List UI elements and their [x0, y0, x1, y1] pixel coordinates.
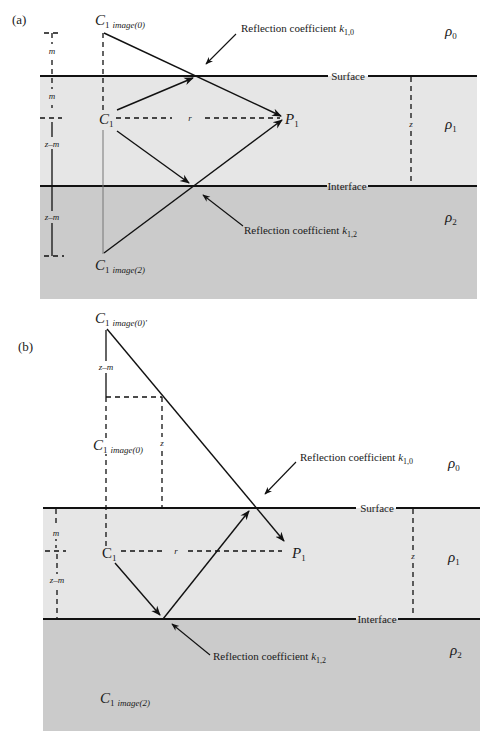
rho0-label: ρ0: [444, 23, 457, 41]
reflection-top-pointer: [206, 34, 236, 64]
layer-2-region: [43, 619, 480, 731]
surface-label: Surface: [360, 502, 394, 514]
reflection-top-label: Reflection coefficient k1,0: [300, 451, 413, 466]
dim-m-lower: m: [49, 91, 56, 101]
panel-a: Surface Interface (a) m m z–m z–m C1imag…: [12, 12, 477, 299]
panel-b-label: (b): [18, 339, 33, 354]
layer-2-region: [40, 186, 477, 299]
interface-label: Interface: [357, 613, 396, 625]
surface-label: Surface: [331, 70, 365, 82]
rho0-label: ρ0: [447, 455, 460, 473]
dim-m: m: [53, 528, 60, 538]
reflection-top-pointer: [265, 462, 296, 494]
dim-z: z: [408, 119, 413, 129]
dim-r: r: [188, 113, 192, 123]
dim-r: r: [174, 546, 178, 556]
dim-zm-upper: z–m: [44, 139, 60, 149]
figure: Surface Interface (a) m m z–m z–m C1imag…: [0, 0, 495, 743]
layer-1-region: [43, 508, 480, 619]
source-image0-prime-label: C1image(0)': [95, 310, 148, 328]
dim-z: z: [410, 551, 415, 561]
dim-zm-top: z–m: [98, 362, 114, 372]
source-image0-label: C1image(0): [95, 12, 145, 30]
reflection-top-label: Reflection coefficient k1,0: [241, 22, 354, 37]
panel-a-label: (a): [12, 12, 26, 27]
panel-b: Surface Interface (b) C1image(0)' z–m z …: [18, 310, 480, 731]
dim-zm: z–m: [49, 575, 65, 585]
dim-m-upper: m: [49, 46, 56, 56]
dim-zm-lower: z–m: [44, 212, 60, 222]
dim-z-inner: z: [159, 438, 164, 448]
interface-label: Interface: [327, 180, 366, 192]
